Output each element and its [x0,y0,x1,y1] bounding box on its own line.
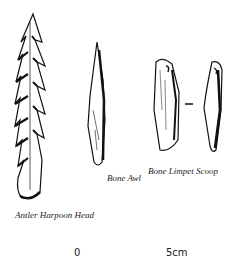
bone-awl-drawing [88,42,105,165]
scale-end-label: 5cm [166,247,188,258]
bone-limpet-scoop-label: Bone Limpet Scoop [148,166,218,176]
antler-harpoon-head-drawing [15,14,45,198]
bone-awl-label: Bone Awl [107,173,141,183]
scale-start-label: 0 [74,247,80,258]
artifacts-illustration [0,0,240,261]
bone-limpet-scoop-front-drawing [154,59,179,150]
antler-harpoon-head-label: Antler Harpoon Head [15,210,94,220]
bone-limpet-scoop-side-drawing [204,62,222,152]
